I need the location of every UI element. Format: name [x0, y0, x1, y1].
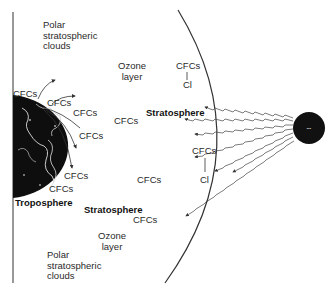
ozone-bottom-line-2: layer: [98, 242, 126, 253]
stratosphere-label-upper: Stratosphere: [146, 108, 205, 119]
cfc-earth-6: CFCs: [49, 184, 73, 195]
ozone-top-line-1: Ozone: [118, 61, 146, 72]
uv-rays: [185, 107, 294, 216]
ozone-bottom-line-1: Ozone: [98, 231, 126, 242]
psc-top-line-1: Polar: [43, 20, 97, 31]
psc-top-line-3: clouds: [43, 41, 97, 52]
cfc-earth-1: CFCs: [13, 89, 37, 100]
cl-label-lower-right: Cl: [200, 175, 209, 186]
sun-icon: ▪▪▪: [293, 112, 325, 144]
psc-bottom-line-1: Polar: [47, 250, 101, 261]
psc-label-top: Polar stratospheric clouds: [43, 20, 97, 52]
cfc-lower-mid: CFCs: [137, 175, 161, 186]
cfc-earth-5: CFCs: [64, 171, 88, 182]
cl-label-top-right: Cl: [183, 80, 192, 91]
troposphere-label: Troposphere: [15, 198, 73, 209]
psc-label-bottom: Polar stratospheric clouds: [47, 250, 101, 282]
ozone-label-top: Ozone layer: [118, 61, 146, 82]
svg-text:▪▪▪: ▪▪▪: [307, 126, 312, 131]
cfc-mid-left: CFCs: [114, 116, 138, 127]
ozone-top-line-2: layer: [118, 72, 146, 83]
cfc-label-top-right: CFCs: [176, 61, 200, 72]
cfc-lower-strat: CFCs: [133, 215, 157, 226]
psc-bottom-line-3: clouds: [47, 271, 101, 282]
cfc-earth-4: CFCs: [79, 131, 103, 142]
ozone-label-bottom: Ozone layer: [98, 231, 126, 252]
cfc-earth-2: CFCs: [47, 98, 71, 109]
cfc-earth-3: CFCs: [73, 108, 97, 119]
cfc-label-lower-right: CFCs: [192, 146, 216, 157]
